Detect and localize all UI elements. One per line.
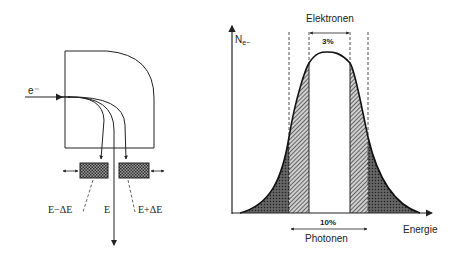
incoming-electron-label: e⁻ xyxy=(28,85,39,96)
beam-path-low xyxy=(68,97,104,159)
label-low-energy: E−ΔE xyxy=(48,204,72,215)
electrons-label: Elektronen xyxy=(306,13,354,24)
spectrometer-diagram: e⁻ E−ΔE E E+ΔE xyxy=(25,51,164,245)
outer-width-label: 10% xyxy=(320,218,336,227)
y-axis-label: Ne− xyxy=(235,34,250,46)
photons-label: Photonen xyxy=(305,233,348,244)
beam-path-high xyxy=(68,97,126,159)
slit-left xyxy=(80,163,108,178)
slit-right xyxy=(119,163,149,178)
inner-width-label: 3% xyxy=(322,37,334,46)
x-axis-label: Energie xyxy=(403,224,438,235)
energy-distribution-plot: Ne− Elektronen 3% 10% Photonen Energie xyxy=(232,13,438,244)
label-center-energy: E xyxy=(104,204,110,215)
distribution-curve xyxy=(240,52,420,213)
magnet-sector xyxy=(65,51,154,148)
diagram-canvas: e⁻ E−ΔE E E+ΔE Ne− Elektronen 3% 10% P xyxy=(0,0,460,255)
label-high-energy: E+ΔE xyxy=(138,204,162,215)
